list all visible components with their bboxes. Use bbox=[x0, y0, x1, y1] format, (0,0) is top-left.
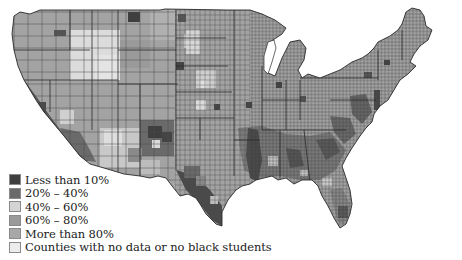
legend-label: 20% – 40% bbox=[25, 186, 88, 200]
legend-item-60-80: 60% – 80% bbox=[9, 214, 272, 228]
legend-swatch bbox=[9, 215, 21, 226]
legend-label: 40% – 60% bbox=[25, 200, 88, 214]
legend-item-less-than-10: Less than 10% bbox=[9, 173, 272, 187]
legend-item-40-60: 40% – 60% bbox=[9, 200, 272, 214]
legend-label: Counties with no data or no black studen… bbox=[25, 240, 272, 254]
legend-swatch bbox=[9, 228, 21, 239]
legend-label: 60% – 80% bbox=[25, 213, 88, 227]
legend-swatch bbox=[9, 242, 21, 253]
legend-swatch bbox=[9, 201, 21, 212]
legend-label: Less than 10% bbox=[25, 173, 109, 187]
legend-label: More than 80% bbox=[25, 227, 114, 241]
map-legend: Less than 10% 20% – 40% 40% – 60% 60% – … bbox=[9, 173, 272, 254]
legend-swatch bbox=[9, 188, 21, 199]
legend-item-more-than-80: More than 80% bbox=[9, 227, 272, 241]
legend-item-20-40: 20% – 40% bbox=[9, 187, 272, 201]
legend-swatch bbox=[9, 174, 21, 185]
legend-item-no-data: Counties with no data or no black studen… bbox=[9, 241, 272, 255]
